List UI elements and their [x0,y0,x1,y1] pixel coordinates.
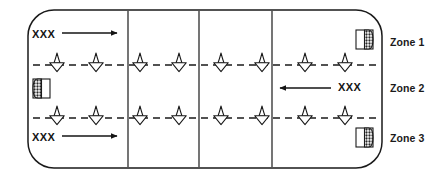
block-marker-zone-2 [33,79,50,98]
zone-label-1: Zone 1 [390,36,424,48]
zone-label-3: Zone 3 [390,132,424,144]
field-boundary [28,10,382,168]
block-marker-zone-3 [356,128,373,147]
zone-label-2: Zone 2 [390,82,424,94]
zone-layout-diagram [0,0,440,179]
flow-label-middle: XXX [338,81,361,93]
block-marker-zone-1 [356,30,373,49]
flow-label-bottom: XXX [32,131,55,143]
diagram-canvas: Zone 1 Zone 2 Zone 3 XXX XXX XXX [0,0,440,179]
flow-label-top: XXX [32,28,55,40]
